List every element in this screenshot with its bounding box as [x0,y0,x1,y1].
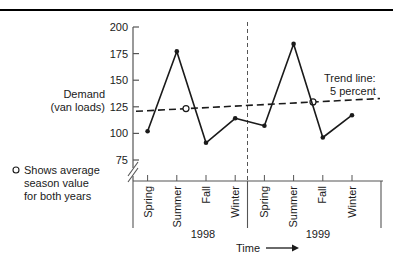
demand-line-path [148,44,352,143]
y-axis-title-line2: (van loads) [51,101,105,113]
data-point-1999-fall [321,135,326,140]
y-tick-label-125: 125 [110,101,128,113]
legend-line1: Shows average [24,164,100,176]
season-label-1999-spring: Spring [258,186,270,218]
year-label-1999: 1999 [306,228,330,240]
season-label-1998-spring: Spring [142,186,154,218]
y-tick-label-175: 175 [110,48,128,60]
y-axis-break-icon [128,160,138,182]
data-point-1998-summer [175,49,180,54]
y-tick-label-100: 100 [110,127,128,139]
season-label-1999-fall: Fall [316,186,328,204]
season-label-1998-winter: Winter [229,186,241,218]
season-label-1999-winter: Winter [346,186,358,218]
trend-line-path [136,99,380,112]
legend-line2: season value [24,177,89,189]
y-axis: 200 175 150 125 100 75 [110,21,139,182]
trend-line-series [136,99,380,112]
data-point-1999-spring [262,124,267,129]
trend-line-annotation: Trend line: 5 percent [324,72,376,97]
season-label-1998-fall: Fall [200,186,212,204]
y-tick-label-150: 150 [110,74,128,86]
year-labels: 1998 1999 [191,228,330,240]
legend-open-circle-icon [13,167,19,173]
data-point-1998-winter [233,116,238,121]
season-label-1999-summer: Summer [287,186,299,228]
legend: Shows average season value for both year… [13,164,100,202]
data-point-1998-fall [204,141,209,146]
demand-series [145,42,354,146]
year-label-1998: 1998 [191,228,215,240]
top-rule [0,9,393,11]
chart-figure: 200 175 150 125 100 75 Demand (van loads… [0,0,393,257]
trend-annotation-line2: 5 percent [330,85,376,97]
y-tick-label-75: 75 [116,154,128,166]
x-axis-title-label: Time [236,242,260,254]
x-axis-arrow-head [292,245,299,252]
y-axis-title: Demand (van loads) [51,88,105,113]
y-tick-label-200: 200 [110,21,128,33]
legend-line3: for both years [24,190,92,202]
data-point-1999-summer [291,42,296,47]
demand-seasonal-line-chart: 200 175 150 125 100 75 Demand (van loads… [0,0,393,257]
x-axis-title: Time [236,242,299,254]
season-label-1998-summer: Summer [171,186,183,228]
y-axis-title-line1: Demand [63,88,105,100]
average-marker-1998 [183,106,189,112]
data-point-1999-winter [350,113,355,118]
trend-annotation-line1: Trend line: [324,72,376,84]
data-point-1998-spring [145,129,150,134]
season-labels: Spring Summer Fall Winter Spring Summer … [142,186,358,228]
